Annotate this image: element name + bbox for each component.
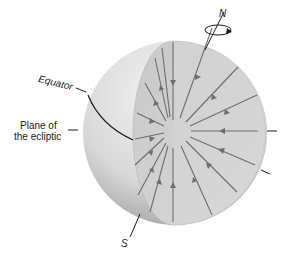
rotation-arrow-icon [205,25,232,35]
north-label: N [219,8,226,19]
south-label: S [121,238,128,249]
ecliptic-label-line2: the ecliptic [14,131,61,142]
ecliptic-label-line1: Plane of [20,120,57,131]
cut-face [133,41,267,225]
